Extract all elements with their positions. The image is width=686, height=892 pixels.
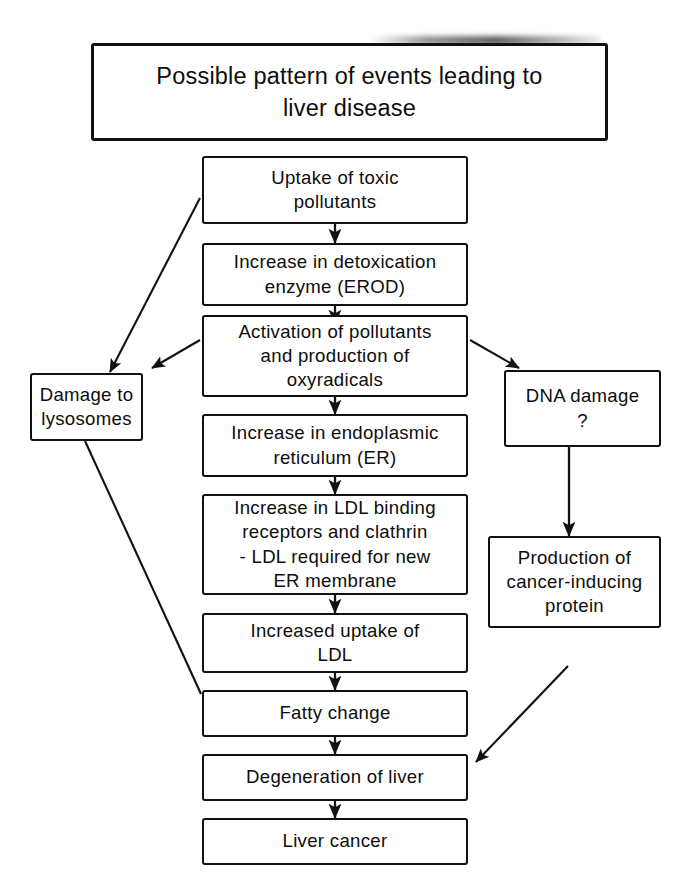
node-production-cancer-inducing-protein: Production of cancer-inducing protein: [488, 536, 661, 628]
diagram-title: Possible pattern of events leading to li…: [150, 60, 548, 125]
edge-activation-to-dna: [470, 340, 519, 368]
node-dna-damage: DNA damage ?: [504, 370, 661, 447]
node-label: Degeneration of liver: [240, 765, 430, 789]
node-degeneration-of-liver: Degeneration of liver: [202, 754, 468, 801]
edge-uptake-to-lysosomes: [110, 198, 200, 372]
node-label: Activation of pollutants and production …: [232, 320, 437, 393]
node-label: Fatty change: [273, 701, 396, 725]
node-uptake-of-toxic-pollutants: Uptake of toxic pollutants: [202, 156, 468, 224]
node-activation-of-pollutants: Activation of pollutants and production …: [202, 315, 468, 397]
node-label: DNA damage ?: [520, 384, 646, 432]
node-increased-uptake-of-ldl: Increased uptake of LDL: [202, 613, 468, 673]
node-label: Increase in LDL binding receptors and cl…: [228, 496, 442, 593]
edge-protein-to-degeneration: [476, 666, 568, 762]
node-label: Uptake of toxic pollutants: [265, 166, 404, 214]
node-label: Increase in detoxication enzyme (EROD): [228, 250, 443, 298]
node-increase-detoxication-enzyme: Increase in detoxication enzyme (EROD): [202, 243, 468, 306]
edge-activation-to-lysosomes: [152, 340, 200, 368]
node-label: Damage to lysosomes: [34, 383, 140, 431]
diagram-title-box: Possible pattern of events leading to li…: [91, 43, 608, 141]
node-label: Production of cancer-inducing protein: [501, 546, 649, 619]
node-fatty-change: Fatty change: [202, 690, 468, 737]
edge-lysosomes-to-fatty: [85, 441, 201, 694]
node-label: Increased uptake of LDL: [244, 619, 425, 667]
flowchart-canvas: Possible pattern of events leading to li…: [0, 0, 686, 892]
node-damage-to-lysosomes: Damage to lysosomes: [30, 373, 143, 441]
node-increase-endoplasmic-reticulum: Increase in endoplasmic reticulum (ER): [202, 414, 468, 477]
node-label: Liver cancer: [277, 829, 394, 853]
node-label: Increase in endoplasmic reticulum (ER): [225, 421, 444, 469]
node-liver-cancer: Liver cancer: [202, 818, 468, 865]
node-increase-ldl-binding-receptors: Increase in LDL binding receptors and cl…: [202, 494, 468, 595]
